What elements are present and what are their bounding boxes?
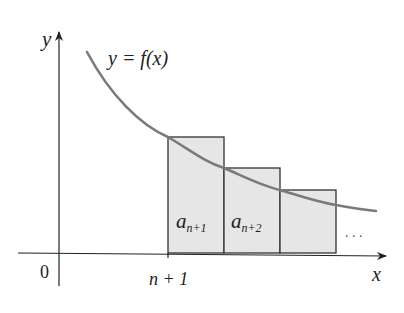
- x-axis-label: x: [372, 264, 381, 284]
- rectangles: [168, 137, 336, 253]
- rectangle-label-2: an+2: [231, 211, 262, 232]
- integral-test-diagram: [0, 0, 404, 313]
- y-axis-label: y: [42, 29, 51, 50]
- origin-label: 0: [40, 263, 49, 281]
- rectangle-label-1-subscript: n+1: [187, 221, 207, 235]
- tick-label-n-plus-1: n + 1: [149, 270, 188, 288]
- rectangle-label-1-base: a: [176, 209, 187, 233]
- rectangle-label-2-subscript: n+2: [242, 221, 262, 235]
- rectangle-label-2-base: a: [231, 209, 242, 233]
- ellipsis: . . .: [345, 226, 363, 240]
- curve-label: y = f(x): [108, 48, 168, 68]
- rectangle-label-1: an+1: [176, 211, 207, 232]
